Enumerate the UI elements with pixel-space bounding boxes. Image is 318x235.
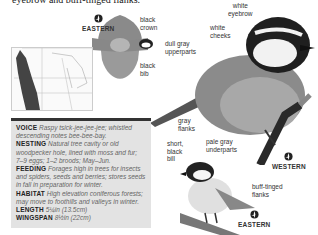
label-dull-gray-upperparts: dull grayupperparts [165,40,196,55]
region-symbol-icon [284,152,293,161]
region-eastern-small: EASTERN [238,210,270,228]
info-voice: VOICE Raspy tsick-jee-jee-jee; whistled … [16,124,146,140]
region-eastern-flight: EASTERN [82,14,114,32]
info-length: LENGTH 5¼in (13.5cm) [16,206,146,214]
label-white-cheeks: whitecheeks [210,24,231,39]
info-nesting: NESTING Natural tree cavity or old woodp… [16,140,146,165]
info-habitat: HABITAT High elevation coniferous forest… [16,190,146,206]
label-pale-gray-underparts: pale grayunderparts [206,138,237,153]
info-wingspan: WINGSPAN 8½in (22cm) [16,214,146,222]
region-symbol-icon [250,210,259,219]
label-short-black-bill: short,blackbill [167,140,183,163]
label-gray-flanks: grayflanks [178,117,195,132]
info-feeding: FEEDING Forages high in trees for insect… [16,165,146,190]
label-buff-tinged-flanks: buff-tingedflanks [252,183,283,198]
label-white-eyebrow: whiteeyebrow [228,2,253,17]
region-symbol-icon [94,14,103,23]
range-map [11,47,93,111]
species-info-box: VOICE Raspy tsick-jee-jee-jee; whistled … [11,118,151,228]
